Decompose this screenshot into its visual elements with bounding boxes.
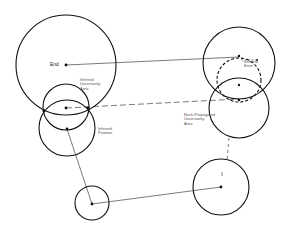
right-end-point — [238, 55, 240, 57]
back-propagated-circle — [209, 78, 269, 138]
right-start-point — [220, 186, 223, 189]
back-propagated-uncertainty-area-label: Back-Propagated Uncertainty Area — [184, 113, 215, 126]
diagram-canvas — [0, 0, 284, 226]
inferred-error-label: Inferred Error — [244, 60, 258, 69]
inferred-position-label: Inferred Position — [98, 127, 112, 136]
right-lower-point — [238, 99, 240, 101]
end-point — [65, 64, 68, 67]
inferred-uncertainty-area-label: Inferred Uncertainty Area — [80, 78, 100, 91]
right-vertical-dashed-line — [227, 138, 229, 160]
inferred-to-start-line — [67, 129, 92, 204]
start-connector-line — [92, 187, 221, 204]
start-point — [91, 203, 94, 206]
end-label: End — [50, 62, 59, 66]
inferred-point — [65, 107, 68, 110]
right-center-point — [238, 84, 240, 86]
intersect-point-right — [87, 107, 90, 110]
inferred-connector-line — [66, 99, 239, 108]
right-end-circle — [203, 27, 275, 99]
intersect-point-left — [43, 110, 46, 113]
end-connector-line — [66, 57, 239, 65]
inferred-position-point — [66, 128, 69, 131]
